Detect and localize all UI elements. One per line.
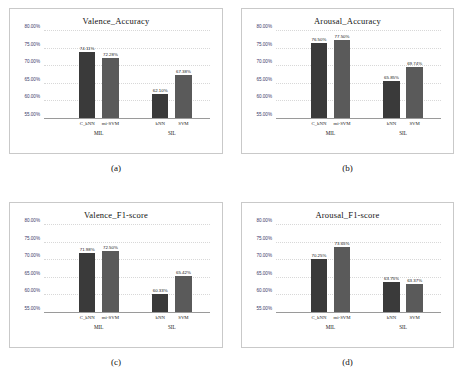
bar-fill [79,253,96,313]
x-axis-category-label: kNN [387,315,396,320]
y-axis-tick-label: 65.00% [256,270,272,275]
bar-value-label: 72.50% [103,245,118,250]
bar-c-knn: 74.11%C_kNN [79,52,96,119]
chart-title: Arousal_Accuracy [242,16,453,26]
x-axis-category-label: kNN [387,121,396,126]
panel-frame: Arousal_Accuracy55.00%60.00%65.00%70.00%… [241,8,454,154]
x-axis-line [276,118,441,119]
gridline [276,30,441,31]
panel-caption: (a) [111,163,121,173]
bar-mi-svm: 73.65%mi-SVM [334,247,351,313]
bar-fill [102,251,119,313]
gridline [276,224,441,225]
y-axis-tick-label: 80.00% [24,24,40,29]
chart-title: Arousal_F1-score [242,210,453,220]
y-axis-tick-label: 60.00% [24,94,40,99]
chart-panel-a: Valence_Accuracy55.00%60.00%65.00%70.00%… [0,0,232,194]
bar-value-label: 71.98% [80,247,95,252]
bar-c-knn: 70.25%C_kNN [311,259,328,313]
bar-knn: 65.85%kNN [383,81,400,119]
y-axis-tick-label: 70.00% [24,59,40,64]
bar-fill [79,52,96,119]
bar-fill [406,67,423,119]
x-axis-line [44,118,210,119]
y-axis-tick-label: 60.00% [256,288,272,293]
panel-frame: Arousal_F1-score55.00%60.00%65.00%70.00%… [241,202,454,348]
y-axis-tick-label: 70.00% [24,253,40,258]
y-axis-tick-label: 60.00% [24,288,40,293]
bar-svm: 63.37%SVM [406,284,423,313]
y-axis-tick-label: 70.00% [256,253,272,258]
gridline [276,242,441,243]
bar-fill [175,75,192,119]
x-axis-category-label: kNN [156,121,165,126]
bar-mi-svm: 72.28%mi-SVM [102,58,119,119]
plot-area: 55.00%60.00%65.00%70.00%75.00%80.00%70.2… [276,225,441,313]
y-axis-tick-label: 55.00% [256,112,272,117]
bar-value-label: 65.42% [176,270,191,275]
bar-value-label: 63.37% [407,278,422,283]
x-axis-category-label: SVM [409,121,419,126]
chart-panel-b: Arousal_Accuracy55.00%60.00%65.00%70.00%… [232,0,463,194]
bar-fill [334,40,351,119]
plot-area: 55.00%60.00%65.00%70.00%75.00%80.00%71.9… [44,225,210,313]
bar-value-label: 65.85% [384,75,399,80]
bar-c-knn: 76.50%C_kNN [311,43,328,119]
y-axis-tick-label: 75.00% [256,235,272,240]
bar-knn: 63.75%kNN [383,282,400,313]
bar-value-label: 67.38% [176,69,191,74]
y-axis-tick-label: 55.00% [24,112,40,117]
x-axis-category-label: SVM [409,315,419,320]
bar-svm: 65.42%SVM [175,276,192,313]
y-axis-tick-label: 80.00% [24,218,40,223]
bar-fill [152,94,169,119]
x-axis-category-label: C_kNN [311,121,326,126]
bar-fill [383,81,400,119]
gridline [276,259,441,260]
bar-knn: 62.10%kNN [152,94,169,119]
x-axis-category-label: SVM [178,315,188,320]
x-axis-category-label: kNN [156,315,165,320]
bar-fill [311,43,328,119]
bar-mi-svm: 77.50%mi-SVM [334,40,351,119]
y-axis-tick-label: 65.00% [256,76,272,81]
bar-svm: 69.74%SVM [406,67,423,119]
bar-value-label: 70.25% [311,253,326,258]
bar-value-label: 73.65% [335,241,350,246]
bar-value-label: 76.50% [311,37,326,42]
panel-caption: (d) [342,357,353,367]
bar-value-label: 62.10% [153,88,168,93]
y-axis-tick-label: 75.00% [24,41,40,46]
chart-panel-c: Valence_F1-score55.00%60.00%65.00%70.00%… [0,194,232,388]
bar-mi-svm: 72.50%mi-SVM [102,251,119,313]
bar-fill [334,247,351,313]
y-axis-tick-label: 55.00% [256,306,272,311]
y-axis-tick-label: 75.00% [256,41,272,46]
gridline [44,242,210,243]
x-axis-line [44,312,210,313]
y-axis-tick-label: 70.00% [256,59,272,64]
y-axis-tick-label: 55.00% [24,306,40,311]
x-axis-category-label: SVM [178,121,188,126]
y-axis-tick-label: 80.00% [256,24,272,29]
bar-c-knn: 71.98%C_kNN [79,253,96,313]
plot-area: 55.00%60.00%65.00%70.00%75.00%80.00%76.5… [276,31,441,119]
y-axis-tick-label: 75.00% [24,235,40,240]
figure-grid: Valence_Accuracy55.00%60.00%65.00%70.00%… [0,0,463,388]
x-axis-line [276,312,441,313]
gridline [44,259,210,260]
bar-knn: 60.33%kNN [152,294,169,313]
chart-title: Valence_Accuracy [10,16,222,26]
panel-frame: Valence_F1-score55.00%60.00%65.00%70.00%… [9,202,223,348]
bar-value-label: 74.11% [80,46,95,51]
panel-caption: (b) [342,163,353,173]
bar-fill [311,259,328,313]
x-axis-category-label: mi-SVM [333,315,350,320]
bar-fill [406,284,423,313]
y-axis-tick-label: 65.00% [24,76,40,81]
gridline [44,65,210,66]
bar-fill [175,276,192,313]
bar-value-label: 69.74% [407,61,422,66]
panel-caption: (c) [111,357,121,367]
bar-fill [152,294,169,313]
